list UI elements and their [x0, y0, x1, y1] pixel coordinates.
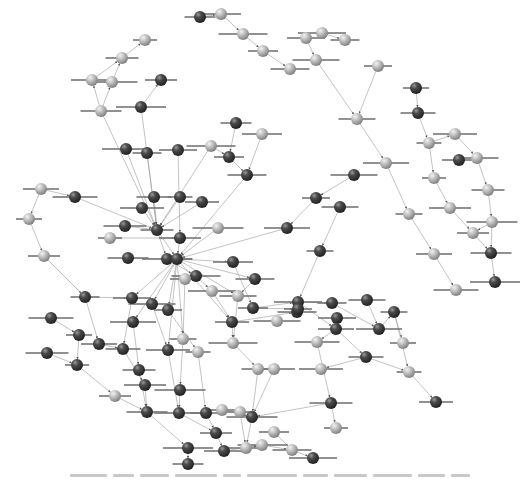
- network-node[interactable]: [489, 276, 501, 288]
- network-node[interactable]: [93, 338, 105, 350]
- network-node[interactable]: [38, 250, 50, 262]
- network-node[interactable]: [249, 273, 261, 285]
- network-node[interactable]: [155, 74, 167, 86]
- network-node[interactable]: [71, 359, 83, 371]
- network-node[interactable]: [268, 363, 280, 375]
- network-node[interactable]: [69, 191, 81, 203]
- network-node[interactable]: [403, 366, 415, 378]
- network-node[interactable]: [119, 220, 131, 232]
- network-node[interactable]: [311, 336, 323, 348]
- network-node[interactable]: [348, 169, 360, 181]
- network-node[interactable]: [397, 337, 409, 349]
- network-node[interactable]: [246, 411, 258, 423]
- network-node[interactable]: [172, 144, 184, 156]
- network-node[interactable]: [423, 137, 435, 149]
- network-node[interactable]: [122, 252, 134, 264]
- network-node[interactable]: [325, 397, 337, 409]
- network-node[interactable]: [95, 105, 107, 117]
- network-node[interactable]: [190, 270, 202, 282]
- network-node[interactable]: [284, 63, 296, 75]
- network-node[interactable]: [256, 128, 268, 140]
- network-node[interactable]: [179, 273, 191, 285]
- network-node[interactable]: [361, 294, 373, 306]
- network-node[interactable]: [380, 157, 392, 169]
- network-node[interactable]: [256, 439, 268, 451]
- network-node[interactable]: [310, 192, 322, 204]
- network-node[interactable]: [226, 316, 238, 328]
- network-node[interactable]: [177, 333, 189, 345]
- network-node[interactable]: [200, 407, 212, 419]
- network-node[interactable]: [471, 152, 483, 164]
- network-node[interactable]: [331, 312, 343, 324]
- network-node[interactable]: [227, 256, 239, 268]
- network-node[interactable]: [314, 245, 326, 257]
- network-node[interactable]: [281, 222, 293, 234]
- network-node[interactable]: [234, 406, 246, 418]
- network-node[interactable]: [373, 323, 385, 335]
- network-node[interactable]: [174, 191, 186, 203]
- network-node[interactable]: [216, 404, 228, 416]
- network-node[interactable]: [182, 442, 194, 454]
- network-node[interactable]: [326, 297, 338, 309]
- network-node[interactable]: [139, 379, 151, 391]
- network-node[interactable]: [196, 196, 208, 208]
- network-node[interactable]: [315, 363, 327, 375]
- network-node[interactable]: [210, 427, 222, 439]
- network-node[interactable]: [174, 384, 186, 396]
- network-node[interactable]: [428, 172, 440, 184]
- network-node[interactable]: [449, 128, 461, 140]
- network-node[interactable]: [247, 302, 259, 314]
- network-node[interactable]: [486, 216, 498, 228]
- network-node[interactable]: [141, 406, 153, 418]
- network-node[interactable]: [257, 45, 269, 57]
- network-node[interactable]: [174, 232, 186, 244]
- network-node[interactable]: [126, 292, 138, 304]
- network-node[interactable]: [127, 316, 139, 328]
- network-node[interactable]: [141, 147, 153, 159]
- network-node[interactable]: [430, 396, 442, 408]
- network-node[interactable]: [73, 329, 85, 341]
- network-node[interactable]: [241, 169, 253, 181]
- network-node[interactable]: [230, 117, 242, 129]
- network-node[interactable]: [334, 201, 346, 213]
- network-node[interactable]: [240, 442, 252, 454]
- network-node[interactable]: [162, 304, 174, 316]
- network-node[interactable]: [268, 426, 280, 438]
- network-node[interactable]: [307, 452, 319, 464]
- network-node[interactable]: [227, 337, 239, 349]
- network-node[interactable]: [412, 107, 424, 119]
- network-node[interactable]: [467, 227, 479, 239]
- network-node[interactable]: [135, 101, 147, 113]
- network-node[interactable]: [310, 54, 322, 66]
- network-node[interactable]: [316, 27, 328, 39]
- network-node[interactable]: [351, 113, 363, 125]
- network-node[interactable]: [410, 82, 422, 94]
- network-node[interactable]: [133, 364, 145, 376]
- network-node[interactable]: [23, 213, 35, 225]
- network-node[interactable]: [482, 184, 494, 196]
- network-node[interactable]: [136, 202, 148, 214]
- network-node[interactable]: [237, 28, 249, 40]
- network-node[interactable]: [215, 8, 227, 20]
- network-node[interactable]: [104, 232, 116, 244]
- network-node[interactable]: [339, 34, 351, 46]
- network-node[interactable]: [35, 183, 47, 195]
- network-node[interactable]: [403, 208, 415, 220]
- network-node[interactable]: [212, 222, 224, 234]
- network-node[interactable]: [330, 422, 342, 434]
- network-node[interactable]: [450, 284, 462, 296]
- network-node[interactable]: [300, 32, 312, 44]
- network-node[interactable]: [206, 285, 218, 297]
- network-node[interactable]: [45, 312, 57, 324]
- network-node[interactable]: [171, 253, 183, 265]
- network-node[interactable]: [192, 346, 204, 358]
- network-node[interactable]: [162, 344, 174, 356]
- network-node[interactable]: [232, 290, 244, 302]
- network-node[interactable]: [292, 303, 304, 315]
- network-node[interactable]: [428, 248, 440, 260]
- network-node[interactable]: [117, 343, 129, 355]
- network-node[interactable]: [41, 347, 53, 359]
- network-node[interactable]: [388, 306, 400, 318]
- network-node[interactable]: [148, 191, 160, 203]
- network-node[interactable]: [120, 143, 132, 155]
